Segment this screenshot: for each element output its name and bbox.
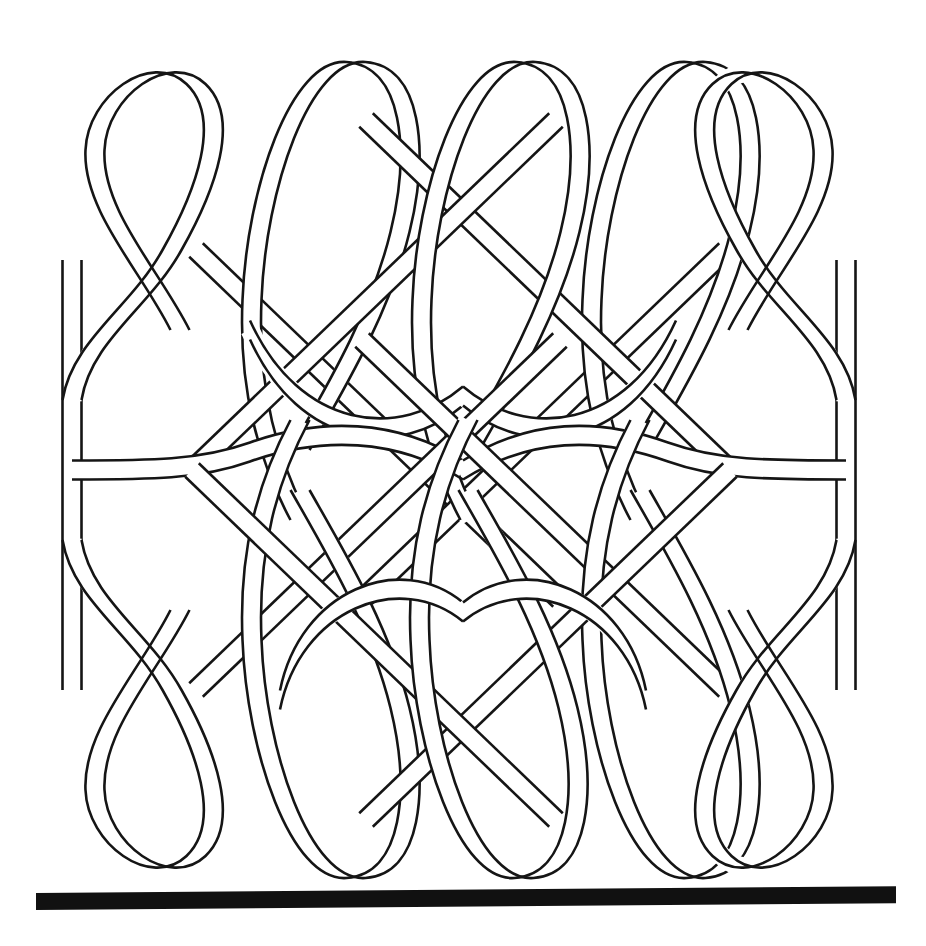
corner-loop-bottom-right <box>695 540 855 868</box>
knot-figure-root: Black-and-white outline drawing of a sin… <box>0 0 926 946</box>
corner-loop-top-left <box>63 72 223 400</box>
knot-weave-group <box>63 62 856 878</box>
corner-loop-bottom-left <box>63 540 223 868</box>
corner-loop-top-right <box>695 72 855 400</box>
bottom-arch-3 <box>410 420 587 878</box>
baseline-bar-group <box>36 886 896 910</box>
celtic-knot-drawing <box>0 0 926 946</box>
baseline-bar <box>36 886 896 910</box>
